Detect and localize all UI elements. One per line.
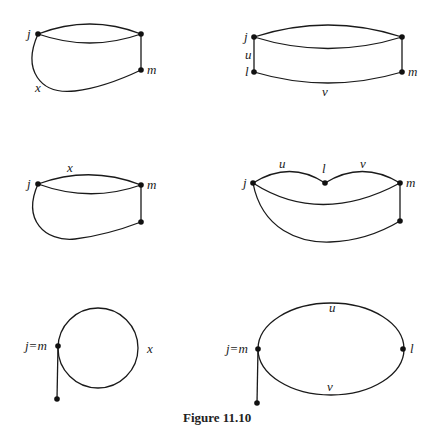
- vertex-top-right: [399, 34, 405, 40]
- label-l: l: [322, 161, 326, 176]
- label-j: j: [25, 26, 31, 41]
- vertex-j: [250, 180, 256, 186]
- label-j: j: [242, 29, 248, 44]
- edge-pendant: [57, 346, 58, 399]
- vertex-top-right: [138, 31, 144, 37]
- edge-lower-arc: [38, 34, 141, 43]
- label-x: x: [66, 160, 73, 175]
- figure-caption: Figure 11.10: [183, 410, 251, 425]
- graph-panel-bottom-left: j=m x: [23, 308, 153, 402]
- graph-panel-bottom-right: j=m l u v: [224, 300, 414, 406]
- label-u: u: [329, 300, 336, 315]
- label-j-equals-m: j=m: [224, 341, 248, 356]
- edge-u: [253, 172, 325, 184]
- label-j: j: [241, 175, 247, 190]
- vertex-j: [35, 31, 41, 37]
- vertex-j-equals-m: [255, 346, 261, 352]
- label-m: m: [406, 175, 415, 190]
- vertex-l: [322, 180, 328, 186]
- edge-v: [325, 172, 400, 184]
- label-j: j: [25, 176, 31, 191]
- vertex-l: [251, 69, 257, 75]
- label-m: m: [147, 177, 156, 192]
- label-x: x: [146, 341, 153, 356]
- label-j-equals-m: j=m: [23, 338, 47, 353]
- graph-panel-top-left: j m x: [25, 24, 156, 95]
- vertex-pendant: [254, 400, 260, 406]
- edge-lower-arc: [254, 37, 402, 49]
- vertex-m: [397, 180, 403, 186]
- figure-canvas: j m x j l m u v j m x: [0, 0, 439, 441]
- label-v: v: [322, 84, 328, 99]
- vertex-lower: [397, 218, 403, 224]
- edge-pendant: [257, 349, 258, 403]
- edge-x-upper-arc: [38, 175, 141, 185]
- edge-v: [254, 72, 402, 83]
- edge-upper-arc: [254, 25, 402, 37]
- label-l: l: [410, 341, 414, 356]
- vertex-m: [138, 67, 144, 73]
- vertex-l: [400, 346, 406, 352]
- vertex-m: [138, 182, 144, 188]
- graph-panel-top-right: j l m u v: [242, 25, 417, 99]
- edge-j-m-arc: [253, 183, 400, 205]
- label-u: u: [279, 156, 286, 171]
- label-v: v: [360, 156, 366, 171]
- label-u: u: [245, 47, 252, 62]
- label-l: l: [245, 64, 249, 79]
- edge-bottom-curve: [33, 184, 141, 239]
- vertex-m: [399, 69, 405, 75]
- label-v: v: [327, 379, 333, 394]
- edge-upper-arc: [38, 24, 141, 34]
- vertex-lower: [138, 219, 144, 225]
- edge-x-loop: [58, 308, 138, 388]
- label-m: m: [147, 62, 156, 77]
- edge-bottom-curve: [253, 183, 400, 242]
- edge-lower-arc: [38, 184, 141, 194]
- vertex-j-equals-m: [55, 343, 61, 349]
- vertex-j: [35, 181, 41, 187]
- vertex-j: [251, 34, 257, 40]
- graph-panel-middle-left: j m x: [25, 160, 156, 239]
- vertex-pendant: [54, 396, 60, 402]
- label-x: x: [34, 80, 41, 95]
- label-m: m: [408, 64, 417, 79]
- graph-panel-middle-right: j l m u v: [241, 156, 415, 242]
